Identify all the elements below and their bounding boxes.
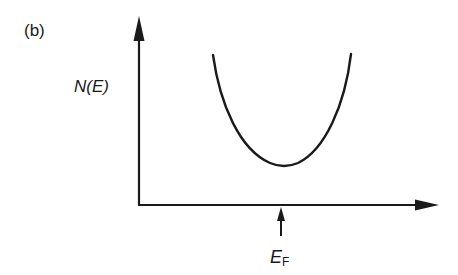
y-axis-arrowhead: [134, 16, 145, 41]
fermi-marker-arrowhead: [277, 207, 285, 221]
panel-label: (b): [24, 22, 45, 39]
y-axis-label: N(E): [74, 78, 109, 95]
x-axis-arrowhead: [415, 200, 439, 211]
fermi-energy-label: EF: [270, 248, 289, 268]
fermi-label-sub: F: [282, 255, 289, 269]
fermi-label-main: E: [270, 247, 282, 267]
dos-curve: [213, 54, 351, 166]
density-of-states-diagram: [0, 0, 458, 275]
